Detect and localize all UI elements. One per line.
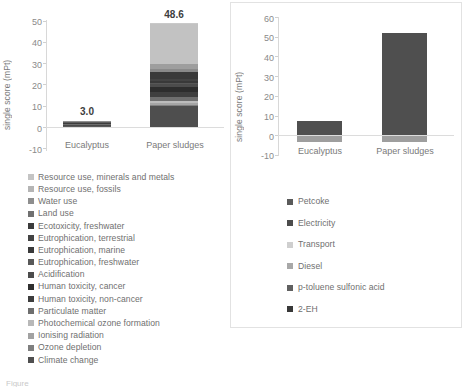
legend-item[interactable]: Eutrophication, marine [28, 244, 174, 256]
right-y-tick-30: 30 [250, 74, 274, 83]
legend-item[interactable]: Climate change [28, 354, 174, 366]
legend-item[interactable]: Photochemical ozone formation [28, 317, 174, 329]
left-tick-mark-20 [43, 84, 46, 85]
legend-item[interactable]: Human toxicity, cancer [28, 281, 174, 293]
legend-item[interactable]: Electricity [287, 213, 385, 235]
left-y-axis-line [46, 20, 47, 151]
left-chart-legend: Resource use, minerals and metals Resour… [28, 171, 174, 366]
right-bar-paper-sludges-positive[interactable] [382, 33, 427, 135]
left-tick-mark-50 [43, 21, 46, 22]
right-y-tick-10: 10 [250, 113, 274, 122]
legend-swatch-icon [287, 306, 293, 312]
right-x-tick-eucalyptus: Eucalyptus [280, 147, 360, 156]
legend-swatch-icon [287, 263, 293, 269]
legend-item[interactable]: Eutrophication, terrestrial [28, 232, 174, 244]
legend-swatch-icon [287, 285, 293, 291]
right-y-tick-60: 60 [250, 15, 274, 24]
left-x-tick-paper-sludges: Paper sludges [134, 141, 216, 150]
right-x-tick-paper-sludges: Paper sludges [364, 147, 446, 156]
legend-swatch-icon [28, 308, 34, 314]
legend-label: Eutrophication, marine [38, 246, 125, 255]
legend-label: Particulate matter [38, 307, 106, 316]
left-bar-seg [63, 126, 111, 127]
left-bar-paper-sludges[interactable] [150, 23, 198, 127]
legend-item[interactable]: Petcoke [287, 191, 385, 213]
legend-label: Electricity [298, 219, 335, 228]
left-tick-mark-neg10 [43, 148, 46, 149]
legend-swatch-icon [287, 242, 293, 248]
figure-caption-fragment: Figure [6, 379, 126, 387]
legend-swatch-icon [287, 199, 293, 205]
legend-item[interactable]: Diesel [287, 256, 385, 278]
left-y-tick-10: 10 [18, 103, 42, 112]
left-bar-seg-climate [150, 106, 198, 127]
legend-swatch-icon [28, 284, 34, 290]
legend-item[interactable]: Human toxicity, non-cancer [28, 293, 174, 305]
legend-label: Eutrophication, terrestrial [38, 234, 135, 243]
legend-swatch-icon [28, 186, 34, 192]
left-bar-label-paper-sludges: 48.6 [150, 10, 198, 20]
legend-item[interactable]: Land use [28, 208, 174, 220]
legend-item[interactable]: Acidification [28, 269, 174, 281]
legend-label: Eutrophication, freshwater [38, 258, 139, 267]
left-tick-mark-30 [43, 63, 46, 64]
legend-label: Resource use, minerals and metals [38, 173, 174, 182]
legend-label: 2-EH [298, 305, 318, 314]
legend-swatch-icon [28, 235, 34, 241]
left-bar-eucalyptus[interactable] [63, 121, 111, 127]
legend-swatch-icon [28, 198, 34, 204]
right-y-tick-20: 20 [250, 93, 274, 102]
legend-item[interactable]: Transport [287, 234, 385, 256]
right-chart-content: single score (mPt) 60 50 40 30 20 10 0 -… [230, 2, 462, 328]
left-y-tick-30: 30 [18, 61, 42, 70]
legend-swatch-icon [28, 223, 34, 229]
left-bar-label-eucalyptus: 3.0 [63, 107, 111, 117]
legend-item[interactable]: Water use [28, 195, 174, 207]
right-bar-paper-sludges-negative[interactable] [382, 136, 427, 142]
legend-item[interactable]: Eutrophication, freshwater [28, 256, 174, 268]
legend-swatch-icon [28, 296, 34, 302]
right-chart-legend: Petcoke Electricity Transport Diesel p-t… [287, 191, 385, 320]
legend-label: Ecotoxicity, freshwater [38, 222, 124, 231]
legend-swatch-icon [28, 211, 34, 217]
legend-item[interactable]: 2-EH [287, 299, 385, 321]
legend-swatch-icon [287, 220, 293, 226]
legend-label: Land use [38, 209, 74, 218]
right-tick-mark-40 [275, 56, 278, 57]
legend-item[interactable]: Particulate matter [28, 305, 174, 317]
left-x-tick-eucalyptus: Eucalyptus [47, 141, 127, 150]
legend-label: Petcoke [298, 197, 329, 206]
legend-label: p-toluene sulfonic acid [298, 283, 385, 292]
legend-item[interactable]: Resource use, minerals and metals [28, 171, 174, 183]
legend-label: Transport [298, 240, 335, 249]
legend-item[interactable]: p-toluene sulfonic acid [287, 277, 385, 299]
right-tick-mark-50 [275, 37, 278, 38]
legend-item[interactable]: Ionising radiation [28, 329, 174, 341]
legend-label: Human toxicity, non-cancer [38, 295, 143, 304]
right-bar-eucalyptus-positive[interactable] [297, 121, 342, 135]
legend-label: Water use [38, 197, 77, 206]
left-y-tick-0: 0 [18, 125, 42, 134]
legend-label: Human toxicity, cancer [38, 282, 125, 291]
legend-swatch-icon [28, 320, 34, 326]
legend-swatch-icon [28, 357, 34, 363]
right-tick-mark-60 [275, 17, 278, 18]
left-y-tick-40: 40 [18, 39, 42, 48]
legend-label: Photochemical ozone formation [38, 319, 160, 328]
left-chart-panel: single score (mPt) 50 40 30 20 10 0 -10 … [0, 0, 226, 388]
legend-swatch-icon [28, 333, 34, 339]
left-bar-seg-resource-fossils [150, 24, 198, 64]
right-bar-eucalyptus-negative[interactable] [297, 136, 342, 142]
left-tick-mark-10 [43, 106, 46, 107]
legend-swatch-icon [28, 174, 34, 180]
left-y-tick-50: 50 [18, 18, 42, 27]
legend-item[interactable]: Resource use, fossils [28, 183, 174, 195]
legend-item[interactable]: Ozone depletion [28, 342, 174, 354]
legend-label: Diesel [298, 262, 322, 271]
legend-label: Ozone depletion [38, 343, 101, 352]
left-tick-mark-40 [43, 42, 46, 43]
right-y-tick-0: 0 [250, 133, 274, 142]
legend-item[interactable]: Ecotoxicity, freshwater [28, 220, 174, 232]
left-zero-baseline [46, 127, 224, 128]
right-y-tick-50: 50 [250, 34, 274, 43]
